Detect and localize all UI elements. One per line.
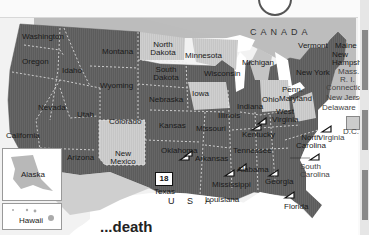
state-label-south-dakota: South Dakota — [151, 66, 181, 82]
state-label-maine: Maine — [335, 42, 357, 50]
state-label-idaho: Idaho — [62, 67, 82, 75]
state-label-virginia: Virginia — [318, 134, 345, 142]
state-label-texas: Texas — [154, 188, 175, 196]
state-label-vermont: Vermont — [298, 42, 328, 50]
state-label-oklahoma: Oklahoma — [161, 147, 197, 155]
state-label-new-york: New York — [296, 69, 330, 77]
caption-text: ...death — [100, 218, 153, 235]
state-label-new-hampshire: New Hampshire — [332, 51, 362, 67]
state-label-alabama: Alabama — [237, 166, 269, 174]
page: CANADA U S A Washington Oregon Californi… — [0, 0, 369, 235]
state-label-michigan: Michigan — [242, 59, 274, 67]
texas-count-badge: 18 — [155, 172, 173, 186]
state-label-minnesota: Minnesota — [185, 52, 222, 60]
state-label-washington: Washington — [22, 33, 64, 41]
state-label-delaware: Delaware — [322, 104, 356, 112]
state-label-north-dakota: North Dakota — [148, 41, 178, 57]
state-label-maryland: Maryland — [279, 95, 312, 103]
state-label-colorado: Colorado — [109, 118, 141, 126]
state-label-dc: D.C. — [343, 128, 359, 136]
state-label-oregon: Oregon — [22, 58, 49, 66]
state-label-nebraska: Nebraska — [149, 96, 183, 104]
alaska-inset: Alaska — [2, 148, 62, 201]
state-label-illinois: Illinois — [218, 112, 240, 120]
state-label-west-virginia: West Virginia — [272, 108, 298, 124]
state-label-kentucky: Kentucky — [242, 131, 275, 139]
state-label-arizona: Arizona — [67, 154, 94, 162]
state-label-louisiana: Louisiana — [205, 196, 239, 204]
state-label-arkansas: Arkansas — [195, 155, 228, 163]
state-label-utah: Utah — [77, 111, 94, 119]
state-label-florida: Florida — [284, 203, 308, 211]
state-label-ohio: Ohio — [262, 96, 279, 104]
state-label-tennessee: Tennessee — [233, 147, 272, 155]
state-label-iowa: Iowa — [192, 90, 209, 98]
state-label-wyoming: Wyoming — [100, 82, 133, 90]
state-label-indiana: Indiana — [237, 103, 263, 111]
state-label-mississippi: Mississippi — [212, 181, 251, 189]
state-label-kansas: Kansas — [159, 122, 186, 130]
state-label-nevada: Nevada — [38, 104, 66, 112]
state-label-new-mexico: New Mexico — [108, 150, 138, 166]
state-label-missouri: Missouri — [196, 125, 226, 133]
state-label-south-carolina: South Carolina — [300, 163, 336, 179]
state-label-georgia: Georgia — [265, 178, 293, 186]
state-label-california: California — [6, 132, 40, 140]
canada-label: CANADA — [250, 27, 312, 37]
state-label-penn: Penn. — [282, 86, 303, 94]
state-label-montana: Montana — [102, 48, 133, 56]
page-edge-strip — [360, 0, 369, 235]
hawaii-label: Hawaii — [19, 217, 43, 225]
state-label-wisconsin: Wisconsin — [204, 70, 240, 78]
hawaii-inset: Hawaii — [2, 203, 62, 230]
alaska-label: Alaska — [21, 171, 45, 179]
